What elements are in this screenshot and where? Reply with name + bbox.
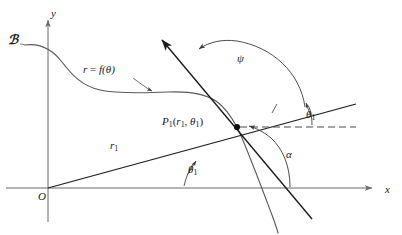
curve-name-label: ℬ xyxy=(8,33,18,46)
angle-label-theta1-point: θ1 xyxy=(306,109,315,122)
radius-tick-mark xyxy=(272,104,277,113)
angle-label-theta1-origin: θ1 xyxy=(188,164,197,177)
curve-name-leader-line xyxy=(20,44,25,45)
theta1-point-sub: 1 xyxy=(311,113,315,122)
point-P1-marker xyxy=(234,124,240,130)
point-label-P: P xyxy=(162,115,169,127)
angle-arc-psi xyxy=(199,40,305,107)
curve-equation-theta: (θ) xyxy=(102,63,115,75)
angle-arc-alpha xyxy=(249,126,290,187)
point-P1-label: P1(r1, θ1) xyxy=(162,116,203,129)
x-axis-label: x xyxy=(385,184,390,195)
polar-tangent-figure: x y O ℬ r = f(θ) P1(r1, θ1) r1 ψ α θ1 θ1 xyxy=(0,0,402,235)
angle-label-psi: ψ xyxy=(237,53,244,64)
angle-label-alpha: α xyxy=(286,149,292,160)
y-axis-label: y xyxy=(51,8,56,19)
radius-label-sub: 1 xyxy=(114,144,118,153)
radius-length-label: r1 xyxy=(110,140,118,153)
origin-label: O xyxy=(38,191,46,202)
equation-leader-line xyxy=(133,78,152,91)
polar-curve xyxy=(25,45,278,233)
curve-equation-label: r = f(θ) xyxy=(83,64,115,75)
point-label-paren-close: ) xyxy=(199,115,203,127)
theta1-origin-sub: 1 xyxy=(193,168,197,177)
